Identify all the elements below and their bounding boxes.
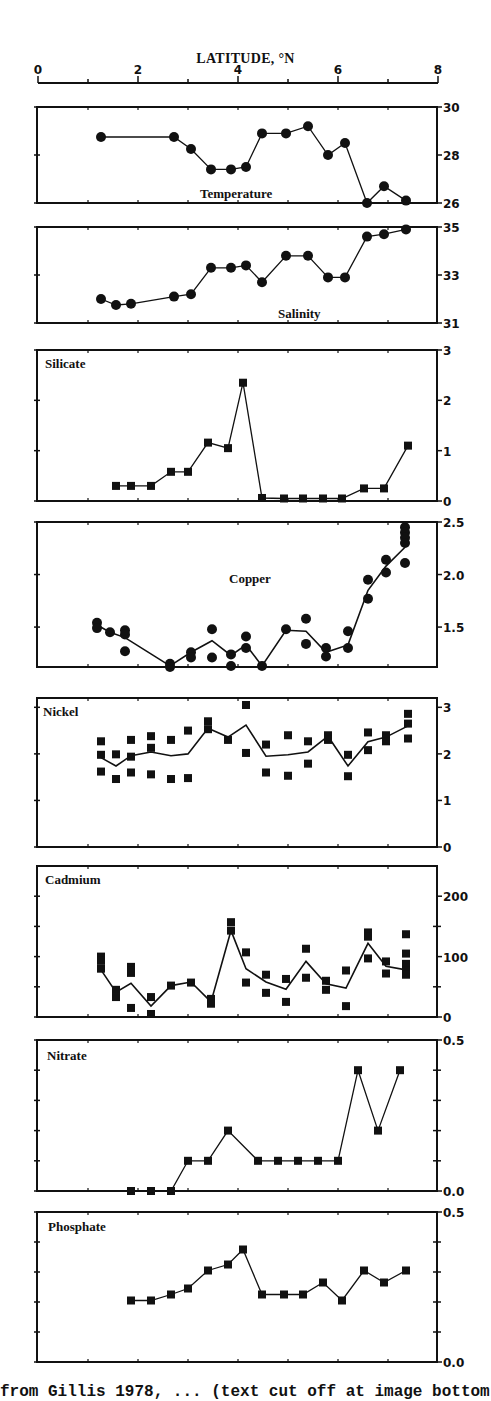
data-point bbox=[184, 468, 192, 476]
y-tick-label: 30 bbox=[443, 101, 460, 115]
series-line bbox=[97, 547, 405, 666]
data-point bbox=[362, 198, 372, 208]
data-point bbox=[342, 966, 350, 974]
data-point bbox=[334, 1157, 342, 1165]
data-point bbox=[324, 736, 332, 744]
y-tick-label: 1 bbox=[443, 794, 451, 808]
data-point bbox=[241, 260, 251, 270]
data-point bbox=[364, 954, 372, 962]
y-tick-label: 0.5 bbox=[443, 1206, 464, 1220]
data-point bbox=[282, 975, 290, 983]
data-point bbox=[396, 1066, 404, 1074]
data-point bbox=[400, 558, 410, 568]
y-tick-label: 100 bbox=[443, 951, 468, 965]
data-point bbox=[299, 494, 307, 502]
data-point bbox=[204, 725, 212, 733]
panel-label: Cadmium bbox=[45, 872, 101, 887]
data-point bbox=[242, 948, 250, 956]
data-point bbox=[227, 918, 235, 926]
y-tick-label: 0.0 bbox=[443, 1356, 464, 1370]
data-point bbox=[404, 442, 412, 450]
data-point bbox=[299, 1291, 307, 1299]
data-point bbox=[262, 741, 270, 749]
data-point bbox=[147, 482, 155, 490]
data-point bbox=[92, 623, 102, 633]
data-point bbox=[257, 128, 267, 138]
data-point bbox=[374, 1127, 382, 1135]
data-point bbox=[321, 651, 331, 661]
data-point bbox=[127, 1297, 135, 1305]
data-point bbox=[127, 736, 135, 744]
data-point bbox=[239, 379, 247, 387]
data-point bbox=[147, 744, 155, 752]
data-point bbox=[281, 624, 291, 634]
data-point bbox=[382, 737, 390, 745]
data-point bbox=[360, 484, 368, 492]
y-tick-label: 2.5 bbox=[443, 516, 464, 530]
data-point bbox=[186, 653, 196, 663]
figure-caption: from Gillis 1978, ... (text cut off at i… bbox=[0, 1383, 491, 1401]
data-point bbox=[112, 482, 120, 490]
data-point bbox=[360, 1267, 368, 1275]
data-point bbox=[207, 653, 217, 663]
data-point bbox=[226, 164, 236, 174]
data-point bbox=[242, 749, 250, 757]
data-point bbox=[120, 629, 130, 639]
data-point bbox=[239, 1246, 247, 1254]
data-point bbox=[364, 746, 372, 754]
data-point bbox=[322, 986, 330, 994]
data-point bbox=[380, 1279, 388, 1287]
data-point bbox=[262, 769, 270, 777]
data-point bbox=[97, 751, 105, 759]
data-point bbox=[379, 181, 389, 191]
data-point bbox=[382, 957, 390, 965]
data-point bbox=[404, 720, 412, 728]
data-point bbox=[127, 753, 135, 761]
data-point bbox=[224, 444, 232, 452]
panel-frame bbox=[37, 866, 437, 1017]
data-point bbox=[165, 662, 175, 672]
panel-nickel: 0123Nickel bbox=[34, 698, 451, 855]
data-point bbox=[402, 930, 410, 938]
data-point bbox=[167, 1187, 175, 1195]
data-point bbox=[147, 1010, 155, 1018]
data-point bbox=[258, 494, 266, 502]
data-point bbox=[169, 132, 179, 142]
data-point bbox=[362, 232, 372, 242]
y-tick-label: 1.5 bbox=[443, 621, 464, 635]
data-point bbox=[344, 772, 352, 780]
x-tick-label: 8 bbox=[434, 63, 442, 77]
data-point bbox=[204, 439, 212, 447]
data-point bbox=[147, 993, 155, 1001]
data-point bbox=[112, 750, 120, 758]
data-point bbox=[319, 494, 327, 502]
y-tick-label: 2.0 bbox=[443, 569, 464, 583]
data-point bbox=[111, 300, 121, 310]
data-point bbox=[354, 1066, 362, 1074]
data-point bbox=[184, 774, 192, 782]
data-point bbox=[206, 164, 216, 174]
data-point bbox=[226, 649, 236, 659]
data-point bbox=[241, 162, 251, 172]
data-point bbox=[262, 971, 270, 979]
data-point bbox=[340, 272, 350, 282]
data-point bbox=[280, 1291, 288, 1299]
panel-label: Temperature bbox=[200, 186, 272, 201]
data-point bbox=[204, 1157, 212, 1165]
data-point bbox=[226, 661, 236, 671]
data-point bbox=[381, 555, 391, 565]
data-point bbox=[127, 1187, 135, 1195]
data-point bbox=[314, 1157, 322, 1165]
data-point bbox=[204, 717, 212, 725]
data-point bbox=[97, 957, 105, 965]
data-point bbox=[401, 224, 411, 234]
data-point bbox=[96, 132, 106, 142]
data-point bbox=[184, 1285, 192, 1293]
data-point bbox=[184, 1157, 192, 1165]
data-point bbox=[343, 643, 353, 653]
data-point bbox=[224, 736, 232, 744]
y-tick-label: 0.0 bbox=[443, 1185, 464, 1199]
data-point bbox=[281, 251, 291, 261]
data-point bbox=[184, 727, 192, 735]
top-latitude-axis: 02468 bbox=[34, 63, 442, 83]
